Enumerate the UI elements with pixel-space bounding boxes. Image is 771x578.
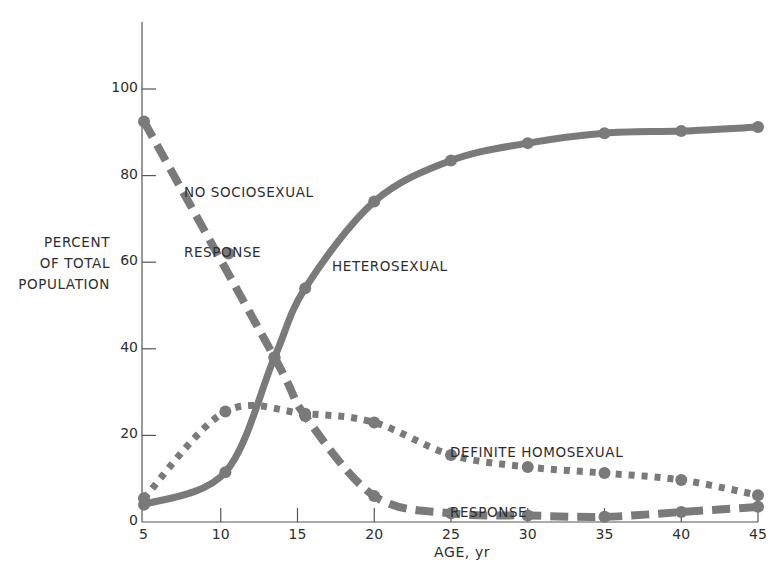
data-point-heterosexual <box>752 121 764 133</box>
homosexual-label: DEFINITE HOMOSEXUAL RESPONSE <box>450 402 623 542</box>
data-point-no-sociosexual-response <box>138 115 150 127</box>
x-tick-label: 40 <box>672 526 690 542</box>
x-tick-label: 5 <box>139 526 148 542</box>
x-tick-label: 15 <box>289 526 307 542</box>
x-axis-label: AGE, yr <box>434 542 490 562</box>
data-point-definite-homosexual-response <box>675 474 687 486</box>
data-point-heterosexual <box>219 466 231 478</box>
data-point-definite-homosexual-response <box>299 408 311 420</box>
y-tick-label: 0 <box>129 512 138 528</box>
y-axis-label: PERCENT OF TOTAL POPULATION <box>0 232 110 295</box>
data-point-definite-homosexual-response <box>138 492 150 504</box>
y-tick-label: 80 <box>120 166 138 182</box>
x-tick-label: 45 <box>749 526 767 542</box>
heterosexual-label: HETEROSEXUAL <box>332 256 448 276</box>
data-point-heterosexual <box>675 125 687 137</box>
data-point-definite-homosexual-response <box>219 406 231 418</box>
data-point-heterosexual <box>599 127 611 139</box>
x-tick-label: 20 <box>365 526 383 542</box>
data-point-definite-homosexual-response <box>752 489 764 501</box>
data-point-heterosexual <box>368 196 380 208</box>
data-point-heterosexual <box>522 137 534 149</box>
y-tick-label: 20 <box>120 425 138 441</box>
homosexual-label-line-1: DEFINITE HOMOSEXUAL <box>450 442 623 462</box>
y-axis-label-line-1: PERCENT <box>0 232 110 253</box>
x-tick-label: 10 <box>212 526 230 542</box>
y-tick-label: 100 <box>111 79 138 95</box>
data-point-no-sociosexual-response <box>675 506 687 518</box>
y-axis-label-line-3: POPULATION <box>0 274 110 295</box>
data-point-no-sociosexual-response <box>268 351 280 363</box>
y-tick-label: 60 <box>120 252 138 268</box>
data-point-no-sociosexual-response <box>368 490 380 502</box>
y-axis-label-line-2: OF TOTAL <box>0 253 110 274</box>
y-tick-label: 40 <box>120 339 138 355</box>
data-point-heterosexual <box>299 282 311 294</box>
data-point-definite-homosexual-response <box>368 416 380 428</box>
data-point-heterosexual <box>445 154 457 166</box>
no-response-label-line-2: RESPONSE <box>184 242 314 262</box>
data-point-no-sociosexual-response <box>752 501 764 513</box>
homosexual-label-line-2: RESPONSE <box>450 502 623 522</box>
no-response-label: NO SOCIOSEXUAL RESPONSE <box>184 142 314 282</box>
no-response-label-line-1: NO SOCIOSEXUAL <box>184 182 314 202</box>
